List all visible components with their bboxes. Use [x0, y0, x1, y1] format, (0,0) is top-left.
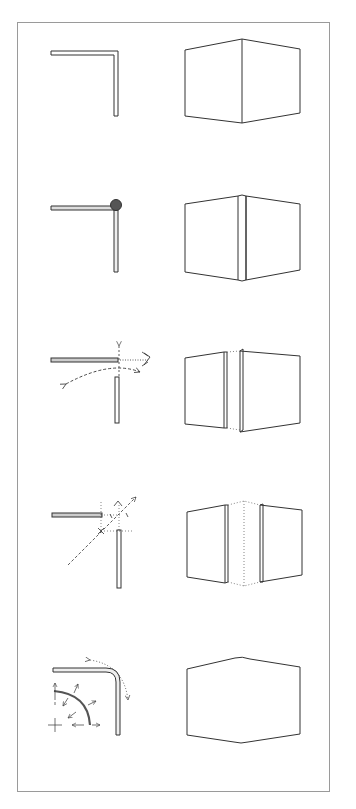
row-5-perspective — [187, 657, 300, 743]
row-4-plan — [52, 497, 136, 588]
row-2-plan — [51, 200, 122, 273]
row-5-plan — [48, 660, 128, 735]
row-4-perspective — [187, 501, 302, 586]
ball-joint-icon — [111, 200, 122, 211]
row-3-perspective — [185, 349, 300, 432]
row-3-plan — [51, 346, 150, 423]
row-1-perspective — [185, 39, 300, 123]
row-2-perspective — [185, 195, 300, 281]
corner-joint-diagram — [0, 0, 356, 809]
row-1-plan — [51, 51, 118, 116]
